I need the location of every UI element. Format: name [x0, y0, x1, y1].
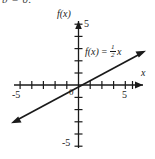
- x-axis-tick-label-negative-5: -5: [12, 90, 20, 100]
- y-axis-arrowhead: [75, 21, 82, 29]
- y-axis-tick-label-5: 5: [84, 19, 89, 29]
- fraction-denominator: 2: [110, 51, 116, 59]
- x-axis-arrowhead: [135, 82, 143, 89]
- fraction-numerator: 1: [110, 44, 116, 51]
- equation-lhs: f(x): [85, 47, 99, 57]
- equation-variable: x: [117, 47, 121, 57]
- x-axis-label: x: [141, 68, 145, 78]
- y-axis-tick-label-negative-5: -5: [62, 138, 70, 148]
- function-equation-label: f(x) = 1 2 x: [85, 44, 121, 60]
- x-axis-tick-label-5: 5: [122, 90, 127, 100]
- function-line-arrowhead-right: [136, 51, 147, 58]
- equation-equals: =: [101, 47, 107, 57]
- function-line-arrowhead-left: [11, 116, 22, 123]
- y-axis-label: f(x): [57, 9, 71, 19]
- math-figure-linear-function: b = 0.: [0, 0, 155, 159]
- origin-label: 0: [69, 88, 74, 97]
- coordinate-plane-graphic: [0, 0, 155, 159]
- equation-fraction-one-half: 1 2: [110, 44, 116, 60]
